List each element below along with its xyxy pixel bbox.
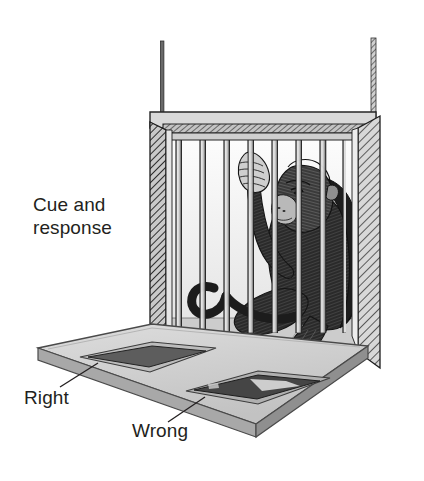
cage-right-wall [352, 116, 380, 368]
cage-left-wall [150, 122, 172, 338]
cage-top-frame [150, 112, 376, 140]
monkey-cage-illustration [0, 0, 424, 481]
